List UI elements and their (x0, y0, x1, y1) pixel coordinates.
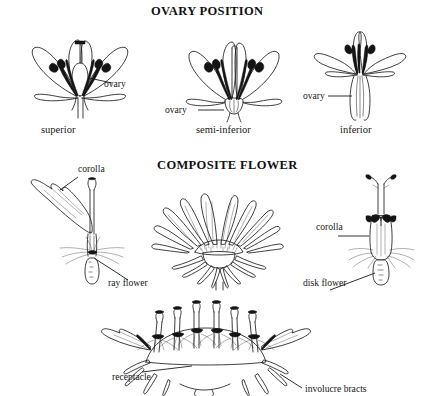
caption-semi-inferior: semi-inferior (196, 124, 251, 135)
callout-ovary-superior: ovary (104, 78, 126, 89)
figure-disk-floret (340, 168, 426, 286)
section-title-composite-flower: COMPOSITE FLOWER (157, 158, 298, 173)
callout-ovary-inferior: ovary (303, 90, 325, 101)
callout-corolla-ray: corolla (78, 163, 105, 174)
caption-superior: superior (41, 124, 75, 135)
figure-superior-ovary (14, 26, 144, 122)
callout-corolla-disk: corolla (316, 221, 343, 232)
callout-ovary-semi-inferior: ovary (165, 104, 187, 115)
figure-semi-inferior-ovary (168, 26, 298, 122)
diagram-canvas: OVARY POSITION ovary (0, 0, 426, 396)
figure-inferior-ovary (300, 26, 420, 122)
callout-ray-flower: ray flower (108, 277, 148, 288)
figure-flower-head (143, 182, 295, 290)
caption-inferior: inferior (340, 124, 372, 135)
callout-involucre-bracts: involucre bracts (305, 383, 367, 394)
figure-ray-floret (20, 168, 150, 286)
callout-disk-flower: disk flower (303, 277, 346, 288)
callout-receptacle: receptacle (112, 371, 151, 382)
section-title-ovary-position: OVARY POSITION (151, 4, 263, 19)
